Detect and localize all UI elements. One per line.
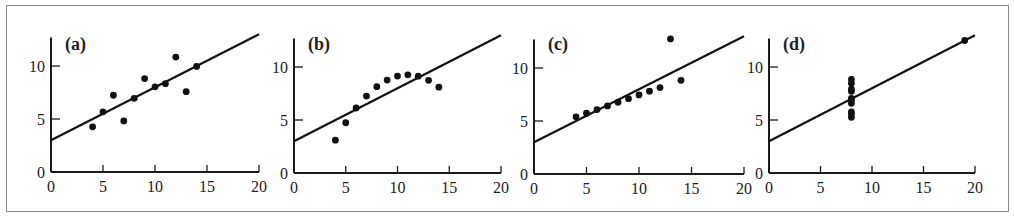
x-tick-label: 5 <box>817 179 825 196</box>
y-tick-label: 5 <box>280 112 288 129</box>
panel-label: (b) <box>308 34 330 55</box>
x-tick-label: 20 <box>493 179 509 196</box>
data-point <box>436 84 443 91</box>
panel-c: 051015200510(c) <box>512 34 752 197</box>
anscombe-quartet-chart: 051015200510(a)051015200510(b)0510152005… <box>0 0 1014 218</box>
data-point <box>404 71 411 78</box>
y-tick-label: 0 <box>280 165 288 182</box>
data-point <box>594 106 601 113</box>
data-point <box>678 77 685 84</box>
data-point <box>332 137 339 144</box>
data-point <box>342 119 349 126</box>
data-point <box>120 118 127 125</box>
y-tick-label: 10 <box>272 59 288 76</box>
data-point <box>625 95 632 102</box>
x-tick-label: 15 <box>441 179 457 196</box>
data-point <box>141 75 148 82</box>
y-tick-label: 5 <box>755 112 763 129</box>
x-tick-label: 15 <box>199 178 215 195</box>
y-tick-label: 0 <box>37 164 45 181</box>
data-point <box>961 37 968 44</box>
y-tick-label: 10 <box>29 58 45 75</box>
panel-a: 051015200510(a) <box>29 34 267 195</box>
data-point <box>415 73 422 80</box>
data-point <box>394 73 401 80</box>
x-tick-label: 20 <box>967 179 983 196</box>
data-point <box>657 84 664 91</box>
data-point <box>615 99 622 106</box>
x-tick-label: 10 <box>864 179 880 196</box>
data-point <box>172 54 179 61</box>
y-tick-label: 0 <box>520 166 528 183</box>
x-tick-label: 10 <box>631 180 647 197</box>
data-point <box>162 80 169 87</box>
data-point <box>384 77 391 84</box>
data-point <box>848 86 855 93</box>
data-point <box>848 80 855 87</box>
data-point <box>848 97 855 104</box>
x-tick-label: 5 <box>342 179 350 196</box>
data-point <box>667 36 674 43</box>
y-tick-label: 5 <box>520 113 528 130</box>
data-point <box>573 113 580 120</box>
y-tick-label: 0 <box>755 165 763 182</box>
x-tick-label: 20 <box>251 178 267 195</box>
x-tick-label: 0 <box>530 180 538 197</box>
y-tick-label: 10 <box>747 59 763 76</box>
data-point <box>363 93 370 100</box>
y-tick-label: 5 <box>37 111 45 128</box>
x-tick-label: 10 <box>390 179 406 196</box>
x-tick-label: 20 <box>736 180 752 197</box>
y-tick-label: 10 <box>512 60 528 77</box>
data-point <box>152 83 159 90</box>
x-tick-label: 15 <box>684 180 700 197</box>
panel-label: (c) <box>548 34 568 55</box>
data-point <box>425 77 432 84</box>
data-point <box>100 108 107 115</box>
data-point <box>193 63 200 70</box>
x-tick-label: 0 <box>290 179 298 196</box>
data-point <box>131 95 138 102</box>
data-point <box>353 105 360 112</box>
data-point <box>583 110 590 117</box>
x-tick-label: 5 <box>99 178 107 195</box>
data-point <box>110 92 117 99</box>
x-tick-label: 0 <box>47 178 55 195</box>
x-tick-label: 5 <box>583 180 591 197</box>
data-point <box>848 111 855 118</box>
data-point <box>636 92 643 99</box>
x-tick-label: 10 <box>147 178 163 195</box>
data-point <box>646 88 653 95</box>
panel-b: 051015200510(b) <box>272 34 509 196</box>
data-point <box>183 88 190 95</box>
data-point <box>373 83 380 90</box>
panel-label: (a) <box>65 34 86 55</box>
data-point <box>89 123 96 130</box>
data-point <box>604 103 611 110</box>
panel-d: 051015200510(d) <box>747 34 983 196</box>
panel-label: (d) <box>783 34 805 55</box>
x-tick-label: 0 <box>765 179 773 196</box>
x-tick-label: 15 <box>916 179 932 196</box>
